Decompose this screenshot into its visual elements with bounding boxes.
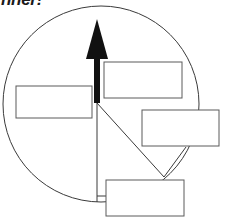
callout-diagram [0, 0, 232, 221]
callout-box-top-right[interactable] [104, 62, 182, 98]
diagram-canvas: nner! [0, 0, 232, 221]
callout-box-left-frame [16, 86, 92, 118]
callout-boxes [16, 62, 219, 216]
callout-box-left[interactable] [16, 86, 92, 118]
callout-box-bottom[interactable] [106, 180, 184, 216]
up-arrow-shaft [94, 55, 100, 103]
callout-box-bottom-frame [106, 180, 184, 216]
up-arrow-head [86, 19, 108, 59]
callout-box-right-frame [142, 110, 219, 146]
callout-box-top-right-frame [104, 62, 182, 98]
leader-to-right-box [164, 147, 186, 177]
callout-box-right[interactable] [142, 110, 219, 146]
